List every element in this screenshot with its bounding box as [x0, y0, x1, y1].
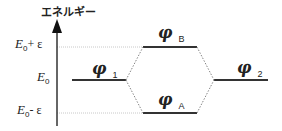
- level-label-middle: E0: [37, 69, 49, 86]
- connector-phiB-phi2: [197, 47, 214, 80]
- arrow-up-icon: [52, 19, 62, 33]
- phiA-symbol: φ: [158, 90, 172, 109]
- level-label-lower-suffix: - ε: [29, 103, 41, 117]
- connector-phi1-phiB: [126, 47, 143, 80]
- phiB-symbol: φ: [158, 23, 172, 42]
- label-phiB: φB: [158, 23, 185, 44]
- phiB-sub: B: [178, 34, 184, 44]
- axis-title: エネルギー: [41, 3, 96, 19]
- level-label-middle-name: E: [37, 69, 45, 84]
- level-label-lower: E0- ε: [17, 102, 41, 119]
- label-phi1: φ1: [92, 59, 118, 80]
- label-phiA: φA: [158, 90, 185, 111]
- label-phi2: φ2: [237, 58, 263, 79]
- connector-phi1-phiA: [126, 80, 143, 113]
- level-label-middle-sub: 0: [45, 77, 49, 86]
- phi2-sub: 2: [257, 69, 262, 79]
- level-label-upper-name: E: [15, 36, 23, 51]
- level-label-upper-suffix: + ε: [27, 37, 42, 51]
- connector-phiA-phi2: [197, 80, 214, 113]
- level-label-lower-name: E: [17, 102, 25, 117]
- phiA-sub: A: [178, 101, 184, 111]
- phi1-sub: 1: [112, 70, 117, 80]
- phi2-symbol: φ: [237, 58, 251, 77]
- level-label-upper: E0+ ε: [15, 36, 42, 53]
- phi1-symbol: φ: [92, 59, 106, 78]
